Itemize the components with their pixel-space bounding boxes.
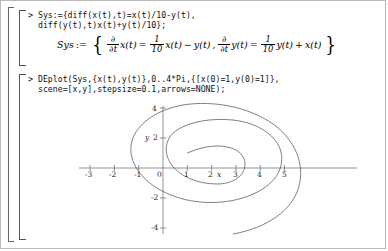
coefficient-variable-2: y(t) xyxy=(276,39,293,50)
input-line[interactable]: DEplot(Sys,{x(t),y(t)},0..4*Pi,{[x(0)=1,… xyxy=(38,74,280,85)
y-tick-label: 4 xyxy=(152,104,157,113)
coefficient-numerator: 1 xyxy=(263,35,272,44)
math-close-brace: } xyxy=(325,36,336,53)
x-tick-label: 2 xyxy=(208,170,213,179)
equation-separator: , xyxy=(210,39,217,50)
partial-numerator: ∂ xyxy=(109,35,117,44)
coefficient-denominator: 10 xyxy=(150,44,165,54)
equals-sign-1: = xyxy=(137,39,149,50)
coefficient-denominator: 10 xyxy=(261,44,276,54)
coefficient-fraction-2: 1 10 xyxy=(261,35,276,54)
partial-derivative-2: ∂ ∂t xyxy=(218,35,230,54)
phase-portrait-plot[interactable]: -3 -2 -1 0 1 2 3 4 5 4 2 -2 -4 y x xyxy=(79,100,359,236)
x-tick-label: 5 xyxy=(282,170,287,179)
coefficient-fraction-1: 1 10 xyxy=(150,35,165,54)
input-line[interactable]: Sys:={diff(x(t),t)=x(t)/10-y(t), xyxy=(38,10,196,21)
input-line[interactable]: scene=[x,y],stepsize=0.1,arrows=NONE); xyxy=(38,84,225,95)
input-line[interactable]: diff(y(t),t)x(t)+y(t)/10}; xyxy=(38,20,166,31)
partial-denominator: ∂t xyxy=(218,44,230,54)
x-tick-label: 1 xyxy=(184,170,189,179)
x-tick-label: -3 xyxy=(85,170,92,179)
x-tick-label: -1 xyxy=(134,170,141,179)
coefficient-variable-1: x(t) xyxy=(165,39,182,50)
solution-trajectory xyxy=(131,103,301,234)
second-term-1: y(t) xyxy=(194,39,211,50)
x-tick-label: -2 xyxy=(109,170,116,179)
execution-group-1[interactable]: > Sys:={diff(x(t),t)=x(t)/10-y(t), diff(… xyxy=(19,10,339,66)
y-tick-label: -4 xyxy=(151,223,158,232)
y-axis-label: y xyxy=(145,133,149,142)
x-axis-label: x xyxy=(217,170,221,179)
execution-group-bracket xyxy=(19,74,26,240)
derivative-variable-2: y(t) xyxy=(231,39,248,50)
math-assign: := xyxy=(74,39,89,50)
operator-sign-2: + xyxy=(293,39,305,50)
derivative-variable-1: x(t) xyxy=(120,39,137,50)
maple-worksheet: > Sys:={diff(x(t),t)=x(t)/10-y(t), diff(… xyxy=(0,0,386,249)
partial-derivative-1: ∂ ∂t xyxy=(107,35,119,54)
input-prompt: > xyxy=(28,10,33,20)
math-output: Sys := { ∂ ∂t x(t) = 1 10 x(t) − y(t) , … xyxy=(57,35,339,54)
y-tick-label: 2 xyxy=(153,133,158,142)
equals-sign-2: = xyxy=(248,39,260,50)
execution-group-bracket xyxy=(19,10,26,66)
operator-sign-1: − xyxy=(182,39,194,50)
math-open-brace: { xyxy=(92,36,103,53)
plot-canvas xyxy=(79,100,359,236)
partial-denominator: ∂t xyxy=(107,44,119,54)
input-prompt: > xyxy=(28,74,33,84)
coefficient-numerator: 1 xyxy=(152,35,161,44)
second-term-2: x(t) xyxy=(305,39,322,50)
partial-numerator: ∂ xyxy=(220,35,228,44)
x-tick-label: 0 xyxy=(157,170,162,179)
x-tick-label: 3 xyxy=(233,170,238,179)
x-tick-label: 4 xyxy=(257,170,262,179)
math-lhs: Sys xyxy=(57,39,74,50)
worksheet-outer-bracket xyxy=(8,7,14,242)
y-tick-label: -2 xyxy=(151,193,158,202)
execution-group-2[interactable]: > DEplot(Sys,{x(t),y(t)},0..4*Pi,{[x(0)=… xyxy=(19,74,369,240)
